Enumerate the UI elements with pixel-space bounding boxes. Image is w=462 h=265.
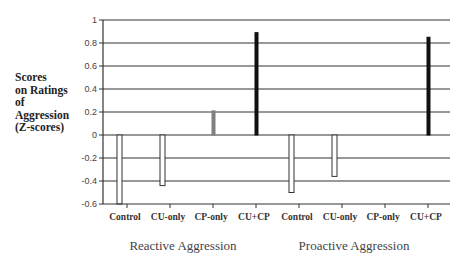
y-tick-label: -0.2	[81, 153, 97, 163]
y-tick-label: 1	[92, 15, 97, 25]
y-tick-label: 0.8	[84, 38, 97, 48]
bar-chart: 10.80.60.40.20-0.2-0.4-0.6 ControlCU-onl…	[0, 0, 462, 265]
y-tick-label: 0	[92, 130, 97, 140]
y-tick-label: 0.4	[84, 84, 97, 94]
bar-proactive-cu-only	[332, 135, 337, 176]
y-axis-label-line: (Z-scores)	[15, 121, 64, 134]
bar-reactive-control	[117, 135, 122, 204]
y-axis-label-line: Scores	[15, 71, 47, 83]
x-axis: ControlCU-onlyCP-onlyCU+CPControlCU-only…	[103, 204, 450, 222]
y-axis-label-line: Aggression	[15, 109, 70, 122]
group-label: Proactive Aggression	[299, 238, 410, 253]
bar-reactive-cu-cp	[255, 33, 258, 135]
bar-proactive-cu-cp	[427, 37, 430, 135]
group-label: Reactive Aggression	[129, 238, 237, 253]
y-axis-label: Scoreson RatingsofAggression(Z-scores)	[15, 71, 70, 134]
bars	[117, 33, 430, 204]
bar-proactive-control	[289, 135, 294, 193]
group-labels: Reactive AggressionProactive Aggression	[129, 238, 410, 253]
bar-reactive-cp-only	[212, 111, 215, 135]
y-axis-label-line: of	[15, 96, 25, 108]
y-tick-label: 0.2	[84, 107, 97, 117]
bar-reactive-cu-only	[160, 135, 165, 186]
y-tick-label: -0.4	[81, 176, 97, 186]
x-category-label: Control	[281, 212, 313, 222]
x-category-label: CP-only	[366, 212, 400, 222]
x-category-label: CP-only	[194, 212, 228, 222]
y-tick-label: 0.6	[84, 61, 97, 71]
y-axis-label-line: on Ratings	[15, 84, 68, 97]
x-category-label: CU-only	[323, 212, 358, 222]
y-tick-label: -0.6	[81, 199, 97, 209]
gridlines	[103, 20, 450, 181]
x-category-label: CU+CP	[238, 212, 270, 222]
x-category-label: Control	[109, 212, 141, 222]
y-axis: 10.80.60.40.20-0.2-0.4-0.6	[81, 15, 103, 209]
x-category-label: CU-only	[151, 212, 186, 222]
x-category-label: CU+CP	[410, 212, 442, 222]
